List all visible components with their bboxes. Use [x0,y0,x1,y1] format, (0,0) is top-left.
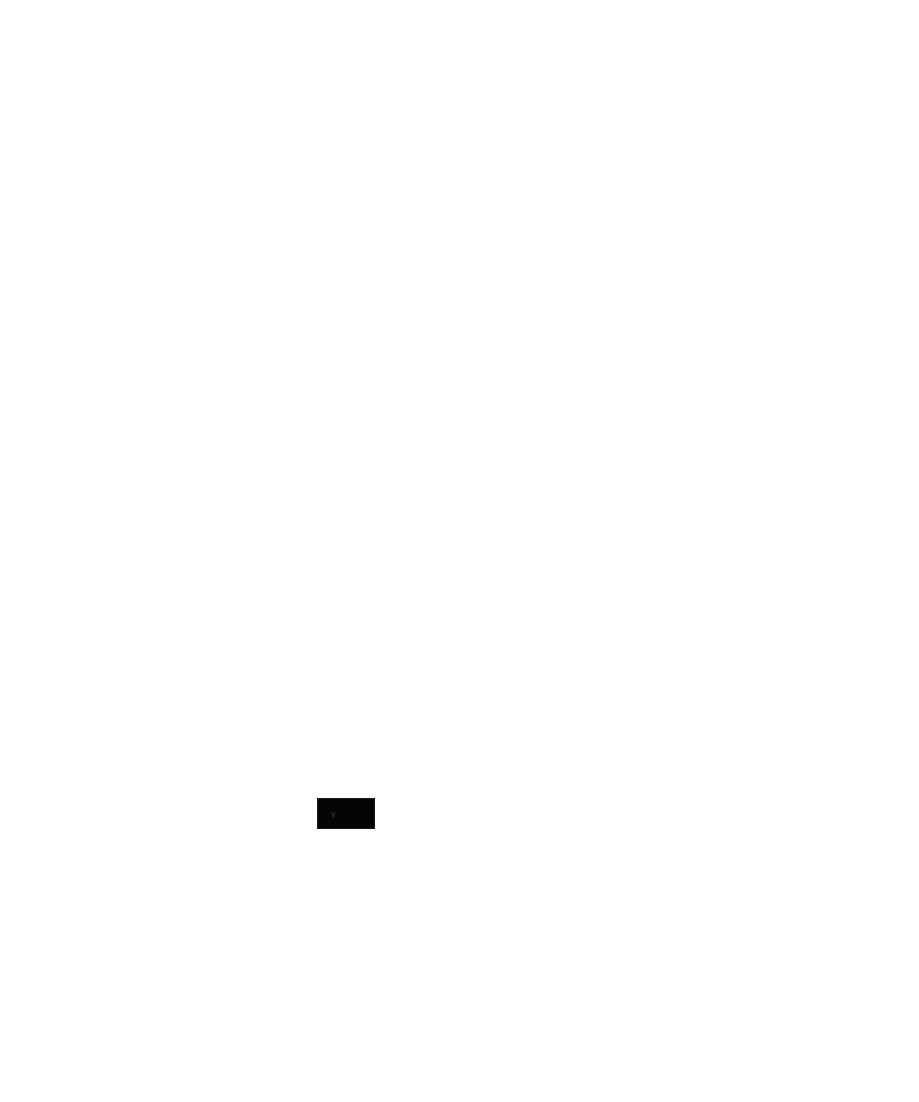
lower-right-line-1 [412,675,612,688]
lower-left-line-3 [145,740,335,753]
bottom-right-line-2 [425,930,615,943]
footer-line-2 [430,1000,610,1013]
redaction-box: v [317,798,375,829]
bottom-right-line-1 [400,888,600,901]
bottom-left-line-2 [112,912,362,925]
lower-right-line-3 [455,756,620,769]
right-paragraph-3-line-3 [450,477,655,493]
lower-left-line-4 [200,756,370,769]
lower-left-line-2 [205,690,365,703]
document-page: v [0,0,919,1102]
lower-right-line-2 [440,742,620,755]
right-paragraph-1-line-4 [440,395,645,411]
mid-right-line-1 [420,507,620,520]
mid-left-line-3 [215,573,375,586]
mid-right-line-2 [440,535,630,548]
mid-left-line-2 [193,560,373,573]
left-paragraph-1-line-5 [290,405,410,421]
mid-left-line-5 [190,617,330,630]
redaction-mark: v [331,810,340,819]
footer-line-1 [180,975,330,988]
mid-left-line-1 [200,545,350,558]
header-right-line-2 [408,322,528,338]
mid-right-line-3 [440,596,620,609]
lower-right-line-4 [448,770,618,783]
header-left-line-1 [163,303,243,319]
header-right-line-1 [424,303,629,319]
bottom-left-line-3 [127,928,357,941]
bottom-left-line-1 [155,885,385,898]
bottom-right-line-3 [465,944,645,957]
footer-line-3 [400,1060,590,1073]
mid-left-line-4 [285,588,415,601]
lower-left-line-1 [180,675,360,688]
